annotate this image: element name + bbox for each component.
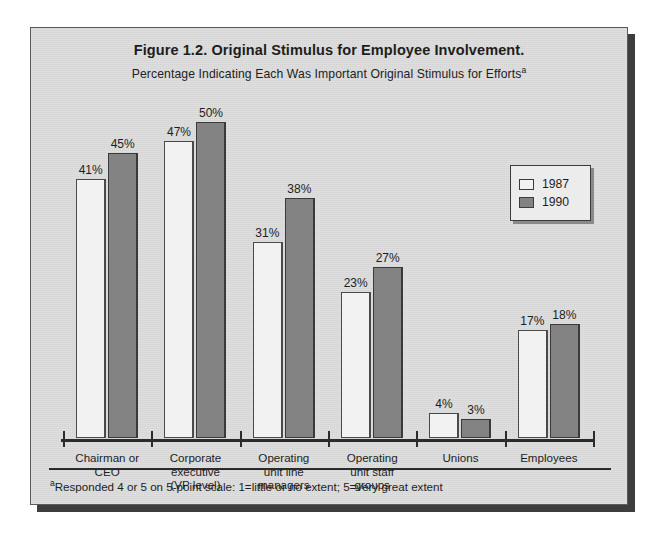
bar-group: 47%50% bbox=[151, 90, 239, 438]
figure-subtitle-text: Percentage Indicating Each Was Important… bbox=[132, 67, 522, 81]
bar-1990-5: 3% bbox=[461, 419, 491, 438]
bar-value-label: 41% bbox=[79, 163, 103, 177]
bar-group: 4%3% bbox=[416, 90, 504, 438]
footnote: aResponded 4 or 5 on 5-point scale: 1=li… bbox=[50, 478, 443, 493]
category-label-line: CEO bbox=[63, 465, 151, 479]
bar-1990-2: 50% bbox=[196, 122, 226, 438]
bar-group: 23%27% bbox=[328, 90, 416, 438]
bar-value-label: 47% bbox=[167, 125, 191, 139]
category-label: Employees bbox=[505, 451, 593, 465]
bar-value-label: 3% bbox=[467, 403, 484, 417]
category-label-line: executive bbox=[151, 465, 239, 479]
axis-tick bbox=[593, 431, 595, 447]
axis-tick bbox=[63, 431, 65, 447]
figure-frame: Figure 1.2. Original Stimulus for Employ… bbox=[30, 27, 628, 505]
axis-tick bbox=[151, 431, 153, 447]
axis-tick bbox=[416, 431, 418, 447]
figure-title: Figure 1.2. Original Stimulus for Employ… bbox=[31, 42, 627, 58]
figure-subtitle: Percentage Indicating Each Was Important… bbox=[31, 65, 627, 81]
legend-swatch-icon-1987 bbox=[519, 179, 534, 190]
category-label-line: Chairman or bbox=[63, 451, 151, 465]
category-label-line: Employees bbox=[505, 451, 593, 465]
legend-swatch-icon-1990 bbox=[519, 197, 534, 208]
figure-subtitle-superscript: a bbox=[521, 65, 526, 75]
category-label: Unions bbox=[416, 451, 504, 465]
axis-tick bbox=[505, 431, 507, 447]
bar-1987-5: 4% bbox=[429, 413, 459, 438]
category-label: Chairman orCEO bbox=[63, 451, 151, 478]
bar-value-label: 31% bbox=[255, 226, 279, 240]
category-axis-labels: Chairman orCEOCorporateexecutive(VP leve… bbox=[63, 451, 593, 503]
plot-area: 41%45%47%50%31%38%23%27%4%3%17%18% bbox=[63, 90, 593, 438]
bar-value-label: 50% bbox=[199, 106, 223, 120]
bar-value-label: 4% bbox=[435, 397, 452, 411]
axis-tick bbox=[240, 431, 242, 447]
bar-value-label: 23% bbox=[344, 276, 368, 290]
footnote-divider bbox=[49, 468, 611, 470]
legend-label-1987: 1987 bbox=[542, 177, 569, 191]
category-label-line: unit line bbox=[240, 465, 328, 479]
category-label-line: Corporate bbox=[151, 451, 239, 465]
bar-group: 31%38% bbox=[240, 90, 328, 438]
category-label-line: unit staff bbox=[328, 465, 416, 479]
bar-value-label: 38% bbox=[287, 182, 311, 196]
axis-tick bbox=[328, 431, 330, 447]
bar-value-label: 18% bbox=[552, 308, 576, 322]
category-label-line: Operating bbox=[328, 451, 416, 465]
bar-1990-1: 45% bbox=[108, 153, 138, 438]
bar-1990-4: 27% bbox=[373, 267, 403, 438]
bar-group: 41%45% bbox=[63, 90, 151, 438]
bar-group: 17%18% bbox=[505, 90, 593, 438]
bar-1987-4: 23% bbox=[341, 292, 371, 438]
bar-1987-3: 31% bbox=[253, 242, 283, 438]
bar-1990-6: 18% bbox=[550, 324, 580, 438]
bar-1987-1: 41% bbox=[76, 179, 106, 438]
bar-value-label: 27% bbox=[376, 251, 400, 265]
legend-item-1987: 1987 bbox=[519, 177, 582, 191]
footnote-text: Responded 4 or 5 on 5-point scale: 1=lit… bbox=[55, 480, 443, 493]
bar-value-label: 17% bbox=[520, 314, 544, 328]
legend-item-1990: 1990 bbox=[519, 195, 582, 209]
bar-1987-2: 47% bbox=[164, 141, 194, 438]
legend-label-1990: 1990 bbox=[542, 195, 569, 209]
legend: 1987 1990 bbox=[510, 165, 591, 221]
bar-1987-6: 17% bbox=[518, 330, 548, 438]
bar-1990-3: 38% bbox=[285, 198, 315, 438]
title-block: Figure 1.2. Original Stimulus for Employ… bbox=[31, 42, 627, 81]
category-label-line: Unions bbox=[416, 451, 504, 465]
category-label-line: Operating bbox=[240, 451, 328, 465]
bar-value-label: 45% bbox=[111, 137, 135, 151]
